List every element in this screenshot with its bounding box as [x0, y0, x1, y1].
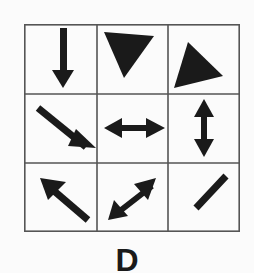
double-arrow-diagonal-icon — [108, 178, 156, 220]
triangle-down-icon — [104, 32, 154, 78]
triangle-right-icon — [174, 42, 223, 88]
puzzle-grid — [24, 24, 240, 232]
grid-svg — [24, 24, 240, 232]
arrow-down-right-icon — [38, 108, 96, 148]
double-arrow-vertical-icon — [194, 99, 214, 157]
arrow-down-icon — [52, 28, 74, 88]
arrow-up-left-icon — [40, 178, 88, 220]
double-arrow-horizontal-icon — [104, 118, 165, 138]
option-label: D — [0, 244, 254, 273]
diagonal-line-icon — [196, 176, 226, 208]
